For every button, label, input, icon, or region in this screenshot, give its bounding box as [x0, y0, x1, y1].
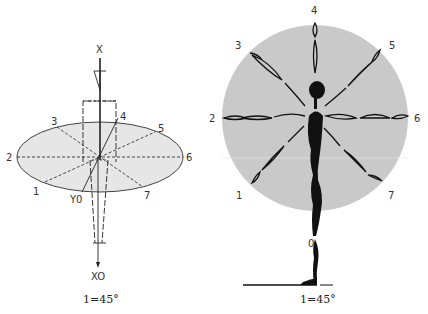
left-direction-label-1: 1: [33, 186, 39, 197]
right-direction-label-6: 6: [414, 113, 420, 124]
right-direction-label-7: 7: [388, 190, 394, 201]
right-direction-label-4: 4: [311, 5, 317, 16]
right-direction-label-5: 5: [389, 40, 395, 51]
left-direction-label-3: 3: [51, 116, 57, 127]
right-direction-label-1: 1: [236, 190, 242, 201]
axis-label-xo: XO: [91, 271, 105, 282]
axis-label-x: X: [96, 44, 103, 55]
left-direction-label-7: 7: [144, 190, 150, 201]
figure-foot: [300, 278, 317, 285]
left-direction-label-4: 4: [120, 111, 126, 122]
left-figure: X XO Y0 1 2 3 4 5 6 7 1=45°: [6, 44, 192, 306]
left-caption: 1=45°: [83, 293, 119, 306]
left-direction-label-6: 6: [186, 152, 192, 163]
right-caption: 1=45°: [300, 293, 336, 306]
diagram-canvas: X XO Y0 1 2 3 4 5 6 7 1=45°: [0, 0, 428, 314]
left-direction-label-2: 2: [6, 152, 12, 163]
figure-head: [309, 81, 325, 99]
right-figure: 4 3 5 2 6 1 7 0 1=45°: [209, 5, 420, 306]
right-direction-label-0: 0: [308, 238, 314, 249]
origin-label-y0: Y0: [69, 194, 82, 205]
right-direction-label-2: 2: [209, 113, 215, 124]
right-direction-label-3: 3: [235, 40, 241, 51]
left-direction-label-5: 5: [158, 123, 164, 134]
